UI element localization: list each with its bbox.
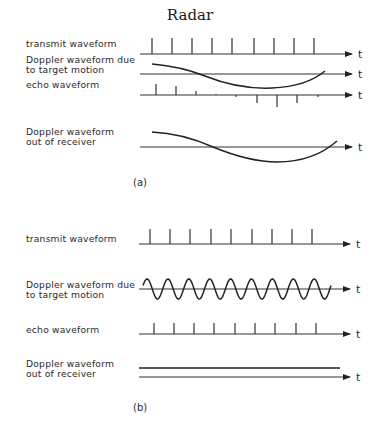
radar-doppler-diagram: Radar transmit waveformtDoppler waveform… bbox=[0, 0, 376, 423]
row-label: transmit waveform bbox=[26, 38, 117, 49]
row-label: echo waveform bbox=[26, 79, 99, 90]
row-label: out of receiver bbox=[26, 136, 96, 147]
time-axis-label: t bbox=[358, 48, 363, 61]
panel-caption: (b) bbox=[133, 402, 147, 413]
row-label: to target motion bbox=[26, 289, 104, 300]
row-doppler-receiver: Doppler waveformout of receivert bbox=[26, 126, 363, 162]
row-doppler-receiver: Doppler waveformout of receivert bbox=[26, 358, 361, 384]
time-axis-label: t bbox=[358, 141, 363, 154]
row-label: echo waveform bbox=[26, 324, 99, 335]
time-axis-label: t bbox=[356, 371, 361, 384]
panel-b: transmit waveformtDoppler waveform dueto… bbox=[26, 229, 361, 413]
time-axis-label: t bbox=[356, 328, 361, 341]
time-axis-label: t bbox=[356, 238, 361, 251]
time-axis-label: t bbox=[358, 89, 363, 102]
row-echo: echo waveformt bbox=[26, 79, 363, 107]
panels-group: transmit waveformtDoppler waveform dueto… bbox=[26, 38, 363, 413]
panel-caption: (a) bbox=[133, 177, 147, 188]
time-axis-label: t bbox=[358, 68, 363, 81]
panel-a: transmit waveformtDoppler waveform dueto… bbox=[26, 38, 363, 188]
time-axis-label: t bbox=[356, 283, 361, 296]
row-label: transmit waveform bbox=[26, 233, 117, 244]
row-label: out of receiver bbox=[26, 368, 96, 379]
row-transmit: transmit waveformt bbox=[26, 229, 361, 251]
row-doppler-target: Doppler waveform dueto target motiont bbox=[26, 279, 361, 300]
row-echo: echo waveformt bbox=[26, 323, 361, 341]
row-label: to target motion bbox=[26, 64, 104, 75]
diagram-title: Radar bbox=[167, 6, 214, 24]
doppler-curve bbox=[152, 64, 325, 88]
